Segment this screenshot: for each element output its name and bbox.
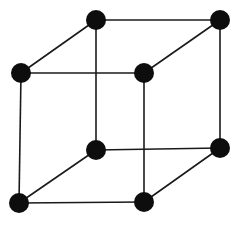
edge-top-back-left-to-top-front-left	[21, 20, 96, 73]
vertex-bottom-front-left	[9, 193, 29, 213]
vertex-top-front-right	[134, 63, 154, 83]
edge-bottom-front-left-to-bottom-front-right	[19, 202, 144, 203]
vertex-circle	[210, 138, 230, 158]
vertex-circle	[134, 192, 154, 212]
vertex-top-back-right	[210, 10, 230, 30]
vertex-top-back-left	[86, 10, 106, 30]
edge-bottom-back-right-to-bottom-front-right	[144, 148, 220, 202]
vertex-circle	[86, 140, 106, 160]
vertex-top-front-left	[11, 63, 31, 83]
edges-group	[19, 20, 220, 203]
vertex-circle	[210, 10, 230, 30]
vertex-circle	[11, 63, 31, 83]
cube-graph-diagram	[0, 0, 241, 225]
edge-top-front-left-to-bottom-front-left	[19, 73, 21, 203]
edge-bottom-back-left-to-bottom-back-right	[96, 148, 220, 150]
vertex-circle	[86, 10, 106, 30]
edge-top-back-right-to-top-front-right	[144, 20, 220, 73]
vertex-bottom-back-right	[210, 138, 230, 158]
vertex-bottom-back-left	[86, 140, 106, 160]
vertices-group	[9, 10, 230, 213]
vertex-circle	[9, 193, 29, 213]
vertex-bottom-front-right	[134, 192, 154, 212]
edge-bottom-back-left-to-bottom-front-left	[19, 150, 96, 203]
vertex-circle	[134, 63, 154, 83]
